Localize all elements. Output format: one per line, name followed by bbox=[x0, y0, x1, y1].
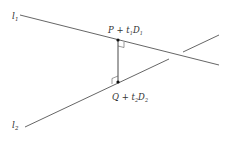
point-q bbox=[116, 80, 119, 83]
label-p-point: P + t1D1 bbox=[107, 25, 143, 36]
line-l2-segment-b bbox=[183, 35, 219, 52]
right-angle-marker-p bbox=[118, 42, 124, 48]
label-l2: l2 bbox=[12, 120, 19, 131]
skew-lines-diagram: l1 l2 P + t1D1 Q + t2D2 bbox=[0, 0, 234, 144]
label-l1: l1 bbox=[12, 11, 18, 22]
label-q-point: Q + t2D2 bbox=[112, 92, 148, 103]
point-p bbox=[116, 38, 119, 41]
line-l2-segment-a bbox=[25, 59, 169, 127]
